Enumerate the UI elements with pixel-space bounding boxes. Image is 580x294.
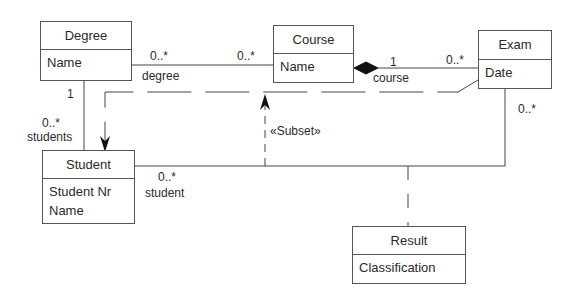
class-attributes: Student Nr Name [43, 179, 134, 220]
multiplicity-label: 1 [67, 88, 74, 101]
class-name: Result [353, 227, 465, 255]
class-degree[interactable]: Degree Name [40, 21, 132, 81]
class-attribute: Classification [353, 255, 465, 277]
class-name: Exam [479, 31, 551, 60]
role-label: student [145, 187, 184, 200]
multiplicity-label: 0..* [150, 50, 168, 63]
role-label: course [373, 72, 409, 85]
class-course[interactable]: Course Name [273, 25, 354, 83]
multiplicity-label: 0..* [42, 117, 60, 130]
multiplicity-label: 0..* [158, 171, 176, 184]
class-name: Course [274, 26, 353, 54]
class-result[interactable]: Result Classification [352, 226, 466, 284]
class-attribute: Name [41, 50, 131, 72]
multiplicity-label: 0..* [446, 54, 464, 67]
class-attribute: Date [479, 60, 551, 82]
class-name: Degree [41, 22, 131, 50]
multiplicity-label: 0..* [518, 103, 536, 116]
multiplicity-label: 0..* [237, 50, 255, 63]
class-attribute: Name [49, 201, 134, 220]
class-name: Student [43, 151, 134, 179]
role-label: students [27, 131, 72, 144]
class-attribute: Student Nr [49, 182, 134, 201]
role-label: degree [142, 70, 179, 83]
class-exam[interactable]: Exam Date [478, 30, 552, 89]
class-attribute: Name [274, 54, 353, 76]
class-student[interactable]: Student Student Nr Name [42, 150, 135, 224]
multiplicity-label: 1 [390, 56, 397, 69]
stereotype-label: «Subset» [270, 125, 321, 138]
